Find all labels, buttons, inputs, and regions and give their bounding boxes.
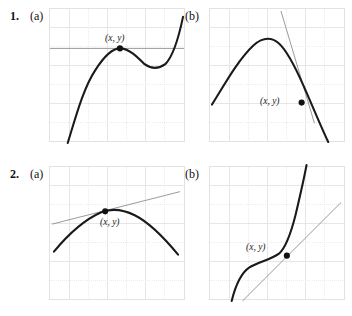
chart-panel-2a: (x, y) bbox=[49, 166, 185, 300]
chart-1a-gridlines bbox=[50, 9, 184, 141]
chart-2a-point-label: (x, y) bbox=[100, 217, 120, 227]
problem-1-part-a-label: (a) bbox=[30, 9, 43, 24]
chart-1b-point-label: (x, y) bbox=[260, 96, 280, 106]
problem-1-part-b-label: (b) bbox=[185, 9, 199, 24]
chart-2b-svg bbox=[210, 167, 344, 299]
problem-2-number: 2. bbox=[10, 167, 19, 182]
chart-2b-tangent-point bbox=[284, 253, 290, 259]
chart-2b-point-label: (x, y) bbox=[246, 242, 266, 252]
chart-1a-svg bbox=[50, 9, 184, 141]
worksheet-page: 1. (a) (b) bbox=[0, 0, 352, 316]
chart-2b-gridlines bbox=[210, 167, 344, 299]
chart-2a-svg bbox=[50, 167, 184, 299]
chart-panel-1b: (x, y) bbox=[209, 8, 345, 142]
chart-1a-curve bbox=[68, 17, 183, 143]
chart-1b-svg bbox=[210, 9, 344, 141]
chart-2a-tangent-point bbox=[102, 208, 108, 214]
problem-2-part-b-label: (b) bbox=[185, 167, 199, 182]
chart-panel-2b: (x, y) bbox=[209, 166, 345, 300]
chart-1a-tangent-point bbox=[117, 45, 123, 51]
problem-1: 1. (a) (b) bbox=[0, 0, 352, 158]
chart-panel-1a: (x, y) bbox=[49, 8, 185, 142]
problem-2-part-a-label: (a) bbox=[30, 167, 43, 182]
problem-2: 2. (a) (b) bbox=[0, 158, 352, 316]
chart-1b-tangent-point bbox=[299, 100, 305, 106]
problem-1-number: 1. bbox=[10, 9, 19, 24]
chart-1a-point-label: (x, y) bbox=[105, 33, 125, 43]
